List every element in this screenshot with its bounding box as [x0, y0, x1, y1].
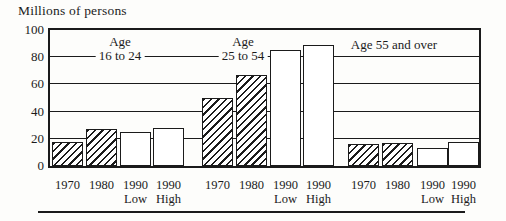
bar-age-25-54-1970: [202, 98, 233, 166]
ytick-60: 60: [0, 76, 44, 91]
ytick-100: 100: [0, 22, 44, 37]
bar-age-16-24-1990-low: [120, 132, 151, 166]
xlabel-age-55-over-1990-high: 1990High: [451, 178, 476, 206]
x-axis-labels: 197019801990Low1990High197019801990Low19…: [50, 178, 479, 210]
xlabel-age-55-over-1970: 1970: [351, 178, 376, 192]
xlabel-year: 1990: [420, 178, 445, 192]
xlabel-age-55-over-1980: 1980: [385, 178, 410, 192]
xlabel-scenario: Low: [123, 192, 148, 206]
xlabel-scenario: High: [306, 192, 331, 206]
y-axis-caption: Millions of persons: [18, 3, 127, 19]
xlabel-age-55-over-1990-low: 1990Low: [420, 178, 445, 206]
xlabel-year: 1990: [306, 178, 331, 192]
bar-age-25-54-1990-high: [303, 45, 334, 166]
ytick-40: 40: [0, 104, 44, 119]
xlabel-year: 1990: [273, 178, 298, 192]
group-label-line: Age: [222, 35, 265, 49]
group-label-line: 25 to 54: [222, 49, 265, 63]
xlabel-age-16-24-1990-high: 1990High: [156, 178, 181, 206]
xlabel-scenario: High: [451, 192, 476, 206]
xlabel-age-25-54-1990-high: 1990High: [306, 178, 331, 206]
bar-age-16-24-1980: [86, 129, 117, 166]
group-label-age-55-over: Age 55 and over: [348, 38, 440, 52]
bar-age-55-over-1970: [348, 144, 379, 166]
xlabel-age-16-24-1990-low: 1990Low: [123, 178, 148, 206]
xlabel-year: 1990: [123, 178, 148, 192]
xlabel-year: 1970: [55, 178, 80, 192]
xlabel-year: 1970: [205, 178, 230, 192]
group-label-line: 16 to 24: [99, 49, 142, 63]
xlabel-age-16-24-1970: 1970: [55, 178, 80, 192]
bar-age-25-54-1980: [236, 75, 267, 166]
ytick-80: 80: [0, 49, 44, 64]
xlabel-year: 1970: [351, 178, 376, 192]
group-label-line: Age 55 and over: [351, 38, 437, 52]
plot-area: Age16 to 24Age25 to 54Age 55 and over: [48, 28, 481, 168]
bar-age-55-over-1990-high: [448, 142, 479, 166]
bar-age-55-over-1990-low: [417, 148, 448, 166]
xlabel-age-25-54-1970: 1970: [205, 178, 230, 192]
y-axis-tick-labels: 020406080100: [0, 28, 44, 168]
xlabel-year: 1980: [385, 178, 410, 192]
xlabel-scenario: Low: [273, 192, 298, 206]
xlabel-year: 1990: [451, 178, 476, 192]
bar-age-16-24-1970: [52, 142, 83, 166]
bottom-rule: [38, 211, 465, 213]
xlabel-age-16-24-1980: 1980: [89, 178, 114, 192]
group-label-age-25-54: Age25 to 54: [219, 35, 268, 63]
xlabel-scenario: Low: [420, 192, 445, 206]
xlabel-year: 1980: [239, 178, 264, 192]
xlabel-year: 1980: [89, 178, 114, 192]
xlabel-year: 1990: [156, 178, 181, 192]
xlabel-scenario: High: [156, 192, 181, 206]
group-label-age-16-24: Age16 to 24: [96, 35, 145, 63]
xlabel-age-25-54-1980: 1980: [239, 178, 264, 192]
xlabel-age-25-54-1990-low: 1990Low: [273, 178, 298, 206]
labor-force-projection-chart: Millions of persons 020406080100 Age16 t…: [0, 0, 506, 221]
ytick-0: 0: [0, 158, 44, 173]
ytick-20: 20: [0, 131, 44, 146]
bar-age-55-over-1980: [382, 143, 413, 166]
bar-age-16-24-1990-high: [153, 128, 184, 166]
group-label-line: Age: [99, 35, 142, 49]
bar-age-25-54-1990-low: [270, 50, 301, 166]
